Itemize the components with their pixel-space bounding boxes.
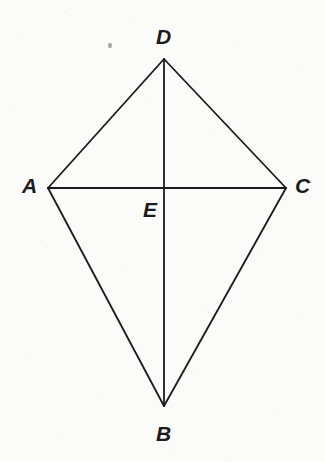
figure-canvas: D A C E B: [0, 0, 325, 462]
side-DC: [164, 59, 286, 188]
kite-figure: [0, 0, 325, 462]
vertex-label-A: A: [22, 175, 37, 196]
scan-speck-artifact: [108, 43, 112, 48]
side-CB: [164, 188, 286, 406]
vertex-label-C: C: [295, 175, 310, 196]
vertex-label-B: B: [156, 423, 171, 444]
side-AD: [48, 59, 164, 188]
vertex-label-D: D: [156, 26, 171, 47]
vertex-label-E: E: [143, 199, 157, 220]
